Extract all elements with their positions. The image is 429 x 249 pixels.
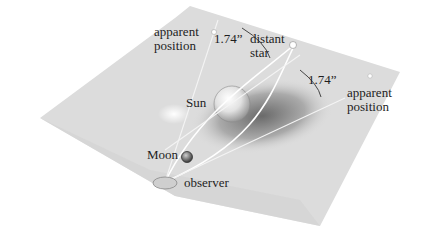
label-distant-star: distant star (250, 32, 285, 60)
apparent-star-right-icon (368, 74, 372, 78)
label-sun: Sun (186, 96, 206, 110)
label-apparent-position-left: apparent position (154, 25, 199, 53)
label-observer: observer (184, 176, 229, 190)
label-moon: Moon (147, 148, 178, 162)
observer-earth-icon (153, 177, 177, 189)
sun-sphere (214, 86, 250, 122)
label-apparent-position-right: apparent position (347, 86, 392, 114)
label-angle-left: 1.74” (214, 32, 243, 46)
moon-sphere (182, 152, 193, 163)
distant-star-icon (290, 42, 297, 49)
label-angle-right: 1.74” (308, 73, 337, 87)
